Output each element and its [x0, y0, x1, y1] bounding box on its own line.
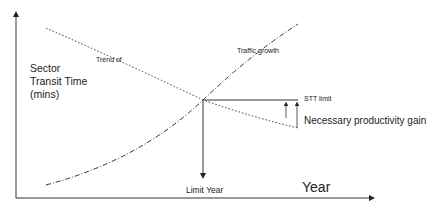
limit-year-label: Limit Year [186, 185, 223, 195]
traffic-growth-label: Traffic growth [237, 47, 279, 54]
x-axis-label: Year [302, 179, 330, 195]
stt-limit-label: STT limit [304, 95, 331, 102]
y-axis-label: Sector Transit Time (mins) [30, 62, 90, 101]
diagram-canvas [0, 0, 428, 212]
productivity-gain-label: Necessary productivity gain [304, 115, 426, 126]
trend-label: Trend of [96, 56, 122, 63]
